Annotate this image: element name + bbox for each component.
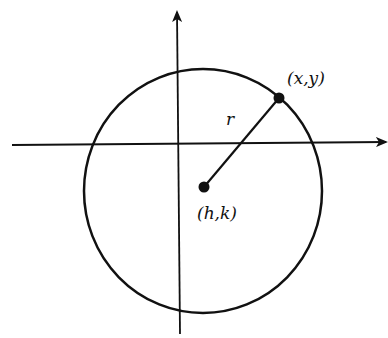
x-axis: [12, 142, 386, 145]
y-axis: [177, 12, 180, 334]
circle-point: [274, 93, 285, 104]
point-label: (x,y): [287, 68, 325, 88]
radius-label: r: [226, 109, 235, 129]
center-point: [199, 182, 210, 193]
center-label: (h,k): [197, 203, 237, 223]
circle-diagram: (x,y) r (h,k): [0, 0, 388, 338]
